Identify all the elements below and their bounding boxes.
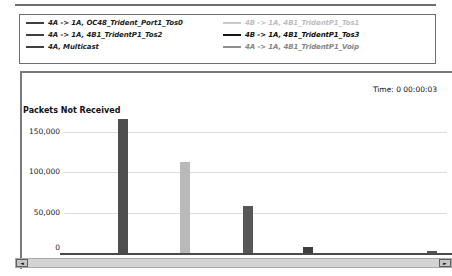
- legend-item-label: 4B -> 1A, 4B1_TridentP1_Tos1: [245, 19, 359, 27]
- x-axis-line: [60, 253, 452, 255]
- legend-item: 4B -> 1A, 4B1_TridentP1_Tos3: [223, 29, 435, 41]
- legend-line-swatch: [223, 22, 241, 24]
- time-label: Time: 0 00:00:03: [373, 85, 437, 94]
- y-axis-title: Packets Not Received: [23, 106, 120, 115]
- legend-item-label: 4A -> 1A, 4B1_TridentP1_Voip: [245, 43, 359, 51]
- legend-item: 4B -> 1A, 4B1_TridentP1_Tos1: [223, 17, 435, 29]
- legend-line-swatch: [26, 34, 44, 36]
- top-separator: [15, 4, 436, 6]
- legend-item-label: 4A -> 1A, 4B1_TridentP1_Tos2: [48, 31, 162, 39]
- chart-window: 4A -> 1A, OC48_Trident_Port1_Tos04B -> 1…: [0, 0, 452, 276]
- legend-item-label: 4B -> 1A, 4B1_TridentP1_Tos3: [245, 31, 359, 39]
- legend-item-label: 4A -> 1A, OC48_Trident_Port1_Tos0: [48, 19, 183, 27]
- y-tick-label: 100,000: [0, 167, 60, 176]
- legend-item: 4A -> 1A, 4B1_TridentP1_Tos2: [26, 29, 223, 41]
- legend-item: 4A -> 1A, OC48_Trident_Port1_Tos0: [26, 17, 223, 29]
- chart-panel: [20, 71, 452, 269]
- legend-grid: 4A -> 1A, OC48_Trident_Port1_Tos04B -> 1…: [26, 17, 435, 53]
- bar-1: [118, 119, 128, 253]
- scroll-left-button[interactable]: ◄: [16, 259, 28, 267]
- legend-item: 4A -> 1A, 4B1_TridentP1_Voip: [223, 41, 435, 53]
- legend-line-swatch: [223, 34, 241, 36]
- legend-item-label: 4A, Multicast: [48, 43, 99, 51]
- y-tick-label: 50,000: [0, 208, 60, 217]
- legend-line-swatch: [223, 46, 241, 48]
- legend-panel: 4A -> 1A, OC48_Trident_Port1_Tos04B -> 1…: [19, 14, 436, 64]
- y-tick-label: 0: [0, 243, 60, 252]
- legend-item: 4A, Multicast: [26, 41, 223, 53]
- bar-2: [180, 162, 190, 253]
- legend-line-swatch: [26, 46, 44, 48]
- bar-3: [243, 206, 253, 253]
- scroll-right-button[interactable]: ►: [439, 259, 451, 267]
- horizontal-scrollbar[interactable]: ◄ ►: [15, 258, 452, 268]
- y-tick-label: 150,000: [0, 127, 60, 136]
- legend-line-swatch: [26, 22, 44, 24]
